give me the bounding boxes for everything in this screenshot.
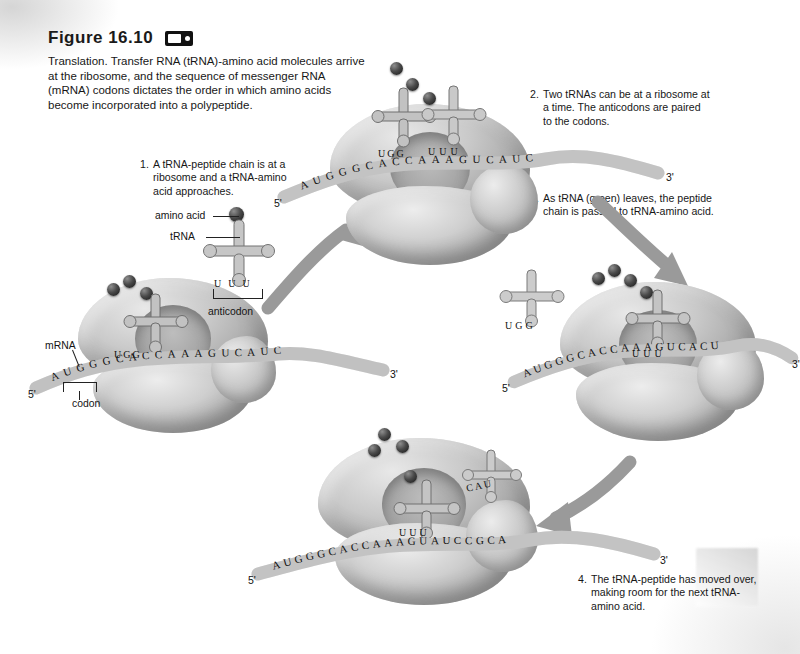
- step-text-1: A tRNA-peptide chain is at a ribosome an…: [140, 158, 290, 198]
- video-icon[interactable]: [165, 31, 193, 46]
- mrna-3prime-stage-4: 3': [660, 554, 668, 566]
- step-caption-1: 1. A tRNA-peptide chain is at a ribosome…: [140, 158, 290, 198]
- figure-header: Figure 16.10 Translation. Transfer RNA (…: [48, 28, 368, 112]
- mrna-strand-stage-4: AUGGGCACCAAAGUAUCCGCA 5' 3': [250, 512, 670, 586]
- label-anticodon: anticodon: [208, 306, 253, 317]
- bracket-anticodon: [213, 289, 263, 299]
- step-number-1: 1.: [140, 158, 149, 171]
- label-amino-acid: amino acid: [155, 210, 205, 221]
- peptide-bead: [378, 428, 391, 441]
- anticodon-free-trna: UUU: [214, 278, 257, 289]
- label-trna: tRNA: [170, 231, 195, 242]
- figure-number: Figure 16.10: [48, 28, 153, 48]
- flow-arrow-2-to-3: [592, 196, 702, 296]
- peptide-bead: [390, 62, 403, 75]
- peptide-bead: [624, 274, 637, 287]
- peptide-bead: [608, 264, 621, 277]
- mrna-3prime-stage-2: 3': [666, 171, 674, 183]
- step-text-2: Two tRNAs can be at a ribosome at a time…: [530, 88, 710, 128]
- step-number-2: 2.: [530, 88, 539, 101]
- trna-a-site-stage-4: [458, 448, 530, 512]
- figure-title-row: Figure 16.10: [48, 28, 368, 48]
- anticodon-p-site-stage-4: UUU: [399, 527, 430, 538]
- mrna-5prime-stage-1: 5': [28, 388, 36, 400]
- peptide-bead: [123, 275, 136, 288]
- peptide-bead: [592, 272, 605, 285]
- mrna-3prime-stage-3: 3': [792, 358, 800, 370]
- label-codon: codon: [72, 398, 100, 409]
- leader-line-amino-acid: [213, 216, 239, 217]
- mrna-5prime-stage-3: 5': [502, 382, 510, 394]
- peptide-bead: [396, 440, 409, 453]
- mrna-sequence-stage-2: AUGGGCACCAAAGUCAUC: [298, 150, 539, 191]
- leader-line-trna: [206, 237, 240, 238]
- figure-caption: Translation. Transfer RNA (tRNA)-amino a…: [48, 54, 368, 112]
- anticodon-a-site-stage-2: UUU: [428, 146, 462, 157]
- anticodon-stage-1: UGG: [114, 349, 142, 360]
- step-caption-2: 2. Two tRNAs can be at a ribosome at a t…: [530, 88, 710, 128]
- mrna-5prime-stage-2: 5': [274, 197, 282, 209]
- anticodon-p-site-stage-2: UGG: [378, 148, 406, 159]
- leader-line-codon: [79, 391, 80, 400]
- peptide-bead: [368, 444, 381, 457]
- mrna-3prime-stage-1: 3': [390, 368, 398, 380]
- bracket-codon: [63, 382, 97, 392]
- svg-text:AUGGGCACCAAAGUCAUC: AUGGGCACCAAAGUCAUC: [298, 150, 539, 191]
- mrna-5prime-stage-4: 5': [248, 574, 256, 586]
- anticodon-bound-stage-3: UUU: [632, 348, 666, 359]
